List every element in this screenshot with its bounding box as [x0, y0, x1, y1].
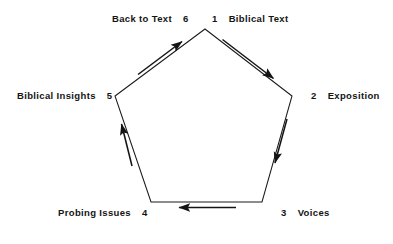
node-label-probing-issues: Probing Issues4	[58, 208, 148, 218]
node-2-text: Exposition	[328, 90, 380, 101]
node-6-text: Back to Text	[112, 13, 172, 24]
node-label-back-to-text: Back to Text6	[112, 14, 189, 24]
node-1-text: Biblical Text	[229, 13, 289, 24]
node-3-text: Voices	[298, 207, 330, 218]
arrow-1-to-2	[223, 40, 274, 79]
arrow-2-to-3	[275, 119, 287, 163]
node-5-number: 5	[107, 90, 113, 101]
arrow-5-to-6	[138, 42, 182, 75]
node-2-number: 2	[311, 90, 317, 101]
node-1-number: 1	[212, 13, 218, 24]
node-label-biblical-insights: Biblical Insights5	[17, 91, 112, 101]
node-3-number: 3	[281, 207, 287, 218]
node-4-text: Probing Issues	[58, 207, 131, 218]
node-label-biblical-text: 1Biblical Text	[212, 14, 288, 24]
node-5-text: Biblical Insights	[17, 90, 96, 101]
node-6-number: 6	[183, 13, 189, 24]
node-label-exposition: 2Exposition	[311, 91, 380, 101]
node-4-number: 4	[142, 207, 148, 218]
node-label-voices: 3Voices	[281, 208, 330, 218]
pentagon-outline	[115, 29, 292, 202]
pentagon-cycle-diagram: Back to Text6 1Biblical Text Biblical In…	[0, 0, 393, 244]
